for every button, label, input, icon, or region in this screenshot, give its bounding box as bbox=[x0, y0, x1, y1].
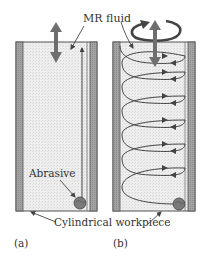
abrasive-label: Abrasive bbox=[29, 168, 75, 179]
panel-b-right-wall bbox=[188, 42, 195, 211]
panel-b-fluid bbox=[113, 42, 195, 211]
panel-a-label: (a) bbox=[14, 238, 28, 249]
mr-finishing-diagram: MR fluid Abrasive Cylindrical workpiece … bbox=[0, 0, 207, 261]
panel-a-fluid bbox=[16, 42, 97, 211]
panel-b-left-wall bbox=[113, 42, 120, 211]
cylindrical-workpiece-label: Cylindrical workpiece bbox=[54, 217, 170, 228]
panel-b bbox=[113, 20, 195, 224]
panel-a-right-wall bbox=[90, 42, 97, 211]
mr-fluid-label: MR fluid bbox=[83, 13, 131, 24]
panel-b-label: (b) bbox=[113, 238, 128, 249]
abrasive-particle-icon bbox=[74, 197, 86, 209]
panel-a-left-wall bbox=[16, 42, 23, 211]
panel-a bbox=[16, 22, 97, 222]
abrasive-particle-icon bbox=[173, 198, 185, 210]
